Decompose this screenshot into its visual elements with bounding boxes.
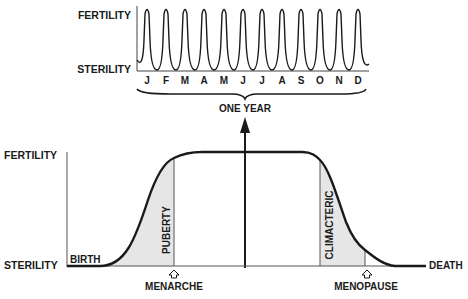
month-labels: J F M A M J J A S O N D [144,75,361,86]
climacteric-label: CLIMACTERIC [324,191,335,260]
menopause-label: MENOPAUSE [334,281,398,292]
month-label: M [220,75,228,86]
month-label: A [278,75,285,86]
month-label: S [298,75,305,86]
top-sterility-label: STERILITY [77,63,131,75]
month-label: D [354,75,361,86]
fertility-lifespan-curve [67,152,426,266]
arrow-up-icon [240,117,250,133]
menopause-marker-icon [362,270,372,278]
menarche-label: MENARCHE [145,281,203,292]
zoom-arrow [240,117,250,268]
month-label: N [335,75,342,86]
top-fertility-label: FERTILITY [78,9,131,21]
month-label: J [240,75,246,86]
death-label: DEATH [429,260,463,271]
menarche-marker-icon [169,270,179,278]
month-label: M [181,75,189,86]
birth-label: BIRTH [70,254,101,265]
month-label: O [316,75,324,86]
one-year-brace [137,89,366,99]
month-label: J [259,75,265,86]
month-label: A [200,75,207,86]
month-label: F [163,75,169,86]
monthly-cycle-curve [137,10,369,71]
bottom-fertility-label: FERTILITY [4,149,57,161]
month-label: J [144,75,150,86]
one-year-label: ONE YEAR [219,103,272,114]
bottom-sterility-label: STERILITY [4,259,58,271]
monthly-cycle-chart: FERTILITY STERILITY J F M A M J J A S O … [77,6,369,114]
lifespan-chart: FERTILITY STERILITY BIRTH DEATH PUBERTY … [4,149,463,292]
fertility-lifespan-diagram: FERTILITY STERILITY J F M A M J J A S O … [0,0,468,299]
puberty-label: PUBERTY [161,206,172,254]
